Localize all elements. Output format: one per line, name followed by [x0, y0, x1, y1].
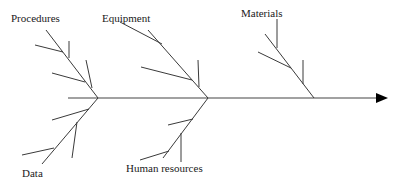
bone-human-resources — [140, 98, 208, 162]
label-materials: Materials — [241, 8, 283, 19]
fishbone-lines — [0, 0, 398, 188]
bone-equipment — [120, 22, 208, 98]
arrowhead-icon — [376, 93, 388, 103]
bone-materials — [258, 19, 314, 98]
fishbone-diagram: Procedures Equipment Materials Data Huma… — [0, 0, 398, 188]
label-data: Data — [22, 168, 43, 179]
bone-data — [22, 98, 98, 164]
bone-procedures — [35, 30, 98, 98]
label-procedures: Procedures — [11, 13, 60, 24]
label-human-resources: Human resources — [126, 163, 203, 174]
label-equipment: Equipment — [102, 13, 150, 24]
